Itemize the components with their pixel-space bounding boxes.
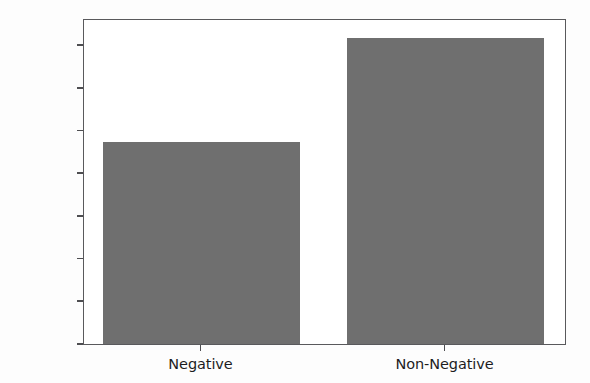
y-axis-tick-mark (77, 172, 83, 174)
x-axis-tick-mark (200, 345, 202, 351)
y-axis-tick-mark (77, 87, 83, 89)
y-axis-tick-mark (77, 258, 83, 260)
bar-negative (103, 142, 300, 344)
y-axis-tick-mark (77, 300, 83, 302)
y-axis-tick-mark (77, 343, 83, 345)
x-axis-tick-mark (444, 345, 446, 351)
x-axis-tick-label: Non-Negative (335, 356, 555, 372)
y-axis-tick-mark (77, 44, 83, 46)
y-axis-tick-mark (77, 215, 83, 217)
y-axis-tick-mark (77, 130, 83, 132)
x-axis-tick-label: Negative (91, 356, 311, 372)
bar-non-negative (347, 38, 544, 344)
plot-area (83, 19, 566, 345)
bar-chart-figure: 010000200003000040000500006000070000 Neg… (0, 0, 590, 383)
